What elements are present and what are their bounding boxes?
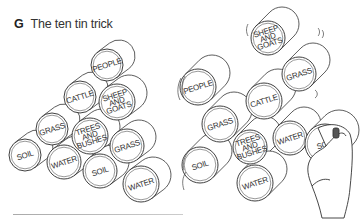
bottom-rule xyxy=(13,214,183,215)
tin-grass: GRASS xyxy=(36,113,68,145)
tin-cattle: CATTLE xyxy=(64,81,96,113)
tin-people: PEOPLE xyxy=(91,49,123,81)
tin-cattle: CATTLE xyxy=(246,83,282,119)
tin-sheep-and-goats: SHEEPANDGOATS xyxy=(99,84,135,120)
tin-trees-and-bushes: TREESANDBUSHES xyxy=(72,118,108,154)
tin-grass: GRASS xyxy=(110,129,144,163)
tin-grass: GRASS xyxy=(282,57,316,91)
tin-soil: SOIL xyxy=(9,139,41,171)
ten-tin-illustration: PEOPLECATTLESHEEPANDGOATSGRASSTREESANDBU… xyxy=(0,0,362,222)
tin-people: PEOPLE xyxy=(180,69,216,105)
tin-soil: SOIL xyxy=(83,154,117,188)
tin-water: WATER xyxy=(47,145,81,179)
tin-water: WATER xyxy=(237,165,273,201)
tin-water: WATER xyxy=(123,166,159,202)
tin-soil: SOIL xyxy=(182,147,218,183)
tin-grass: GRASS xyxy=(202,106,238,142)
tin-water: WATER xyxy=(273,121,307,155)
tin-sheep-and-goats: SHEEPANDGOATS xyxy=(251,21,285,55)
